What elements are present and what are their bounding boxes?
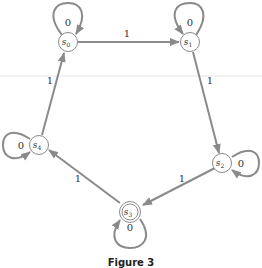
loop-label: 0: [187, 17, 193, 28]
figure-caption: Figure 3: [0, 257, 262, 268]
state-s3-accepting: s3: [120, 202, 141, 223]
loop-label: 0: [238, 158, 244, 169]
self-loop-s4: 0: [3, 133, 30, 159]
transition-s3-s4: 1: [49, 150, 120, 203]
self-loop-s3: 0: [114, 219, 146, 248]
transition-label: 1: [124, 28, 130, 39]
transition-s4-s0: 1: [42, 53, 64, 135]
state-s4: s4: [30, 136, 49, 155]
self-loop-s1: 0: [175, 3, 204, 35]
state-s0: s0: [59, 33, 78, 52]
self-loop-s2: 0: [232, 151, 259, 177]
loop-label: 0: [65, 17, 71, 28]
state-s1: s1: [181, 33, 200, 52]
transition-label: 1: [179, 173, 185, 184]
transition-s2-s3: 1: [143, 168, 215, 205]
transition-s0-s1: 1: [78, 28, 179, 42]
transition-label: 1: [75, 173, 81, 184]
loop-label: 0: [18, 140, 24, 151]
state-s2: s2: [213, 154, 232, 173]
transition-label: 1: [207, 75, 213, 86]
transition-label: 1: [47, 75, 53, 86]
self-loop-s0: 0: [53, 3, 82, 35]
loop-label: 0: [127, 222, 133, 233]
transition-s1-s2: 1: [193, 52, 219, 153]
